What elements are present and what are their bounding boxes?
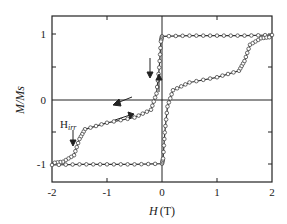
hirr-label: Hirr xyxy=(60,118,77,132)
hirr-arrow xyxy=(70,140,76,146)
y-axis-label: M/Ms xyxy=(13,86,27,115)
y-tick-labels: 10-1 xyxy=(37,28,47,170)
svg-text:1: 1 xyxy=(214,186,220,198)
hysteresis-chart: -2-1012 10-1 Hirr H(T) M/Ms xyxy=(0,0,287,224)
svg-text:0: 0 xyxy=(41,94,47,106)
svg-text:-1: -1 xyxy=(37,158,46,170)
svg-text:1: 1 xyxy=(41,28,47,40)
svg-text:-2: -2 xyxy=(47,186,56,198)
svg-text:2: 2 xyxy=(269,186,275,198)
svg-text:0: 0 xyxy=(159,186,165,198)
x-axis-label: H(T) xyxy=(148,204,175,218)
x-tick-labels: -2-1012 xyxy=(47,186,274,198)
svg-text:-1: -1 xyxy=(102,186,111,198)
